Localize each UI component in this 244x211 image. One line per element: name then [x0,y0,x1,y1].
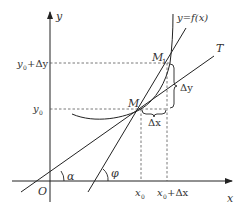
svg-text:+Δx: +Δx [167,187,189,198]
y0-plus-dy-label: y 0 +Δy [16,58,49,71]
point-m-label: M [127,97,140,110]
tangent-label: T [216,42,225,55]
curve-label: y=f(x) [176,12,208,23]
phi-label: φ [111,167,119,180]
phi-arc [103,169,108,181]
derivative-diagram: y x O y=f(x) T M M 1 α φ y 0 y 0 +Δy x 0… [0,0,244,211]
alpha-label: α [67,170,75,183]
svg-text:y: y [32,103,39,114]
svg-text:y: y [16,58,23,69]
dy-label: Δy [180,82,193,93]
x0-plus-dx-label: x 0 +Δx [157,187,189,200]
dx-label: Δx [148,117,161,128]
alpha-arc [61,171,64,181]
dx-brace [142,110,166,117]
x-axis-label: x [227,192,234,205]
curve-f [72,14,173,119]
svg-text:+Δy: +Δy [27,58,49,69]
point-m1-label: M 1 [151,51,166,66]
origin-label: O [38,185,47,198]
x0-label: x 0 [135,187,145,200]
y0-label: y 0 [32,103,43,116]
secant-line [88,28,186,192]
svg-text:0: 0 [141,193,145,200]
svg-text:1: 1 [162,58,166,66]
y-axis-label: y [55,10,63,23]
svg-text:0: 0 [39,109,43,116]
